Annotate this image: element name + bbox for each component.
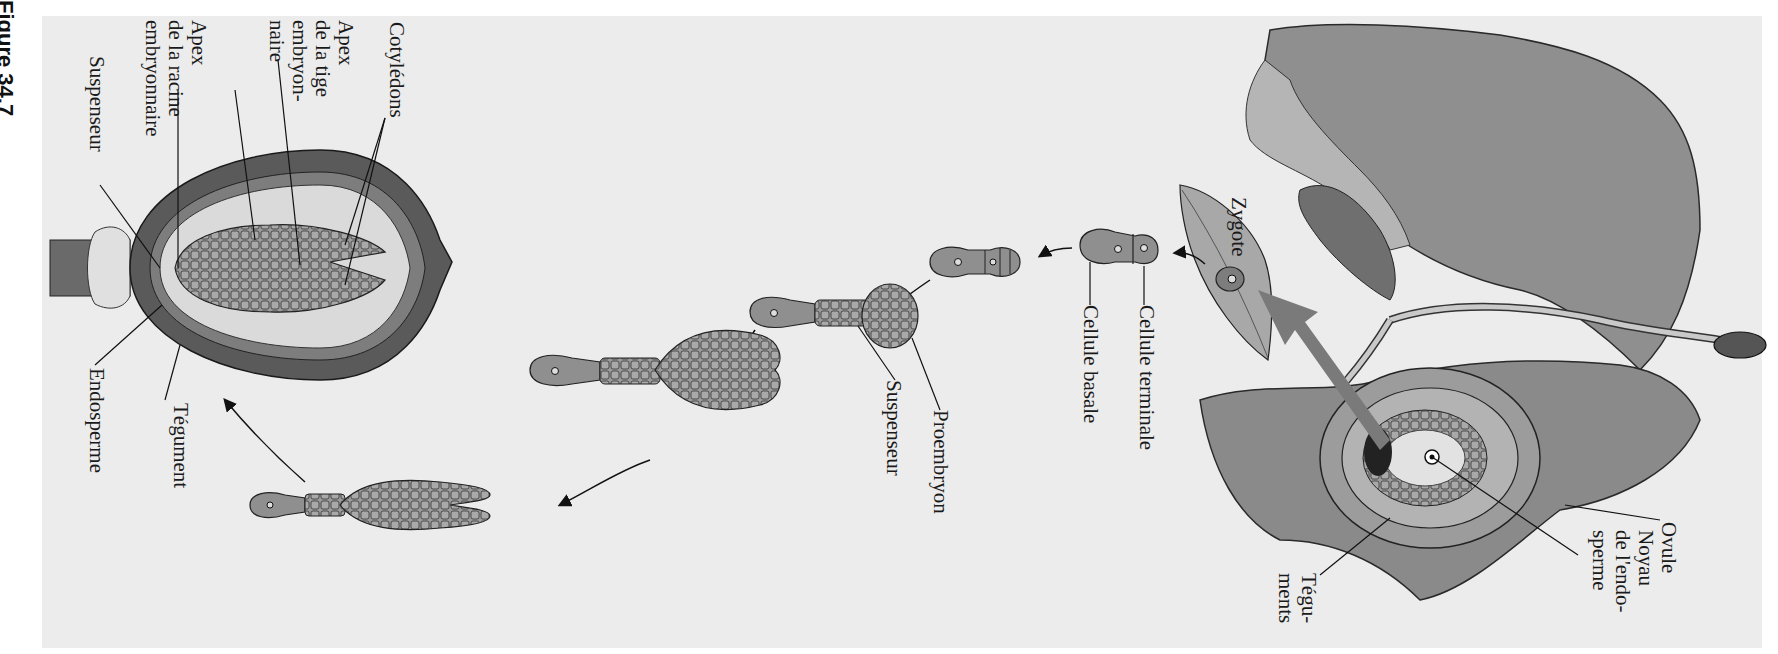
label-noyau-endosperme: Noyau de l'endo- sperme <box>1588 530 1657 613</box>
label-line: de la tige <box>311 20 334 102</box>
label-ovule: Ovule <box>1657 522 1680 573</box>
label-line: de l'endo- <box>1611 530 1634 613</box>
label-suspenseur-seed: Suspenseur <box>85 56 108 152</box>
globular-embryo-drawing <box>530 331 780 505</box>
label-proembryon: Proembryon <box>929 410 952 514</box>
label-line: de la racine <box>164 20 187 137</box>
label-line: Tégu- <box>1297 573 1320 623</box>
label-suspenseur: Suspenseur <box>882 380 905 476</box>
label-line: Noyau <box>1634 530 1657 613</box>
label-line: ments <box>1274 573 1297 623</box>
label-line: Cellule basale <box>1079 305 1102 423</box>
label-apex-racine: Apex de la racine embryonnaire <box>141 20 210 137</box>
label-cotyledons: Cotylédons <box>385 22 408 118</box>
label-line: Apex <box>334 20 357 102</box>
label-line: Proembryon <box>929 410 952 514</box>
label-line: Suspenseur <box>85 56 108 152</box>
two-cell-drawing <box>1040 229 1158 305</box>
label-line: sperme <box>1588 530 1611 613</box>
label-line: Zygote <box>1227 197 1250 256</box>
label-line: Suspenseur <box>882 380 905 476</box>
four-cell-drawing <box>895 247 1020 305</box>
label-line: Tégument <box>169 403 192 488</box>
label-line: Apex <box>187 20 210 137</box>
label-line: Endosperme <box>85 368 108 473</box>
label-line: Cotylédons <box>385 22 408 118</box>
flower-drawing <box>1180 25 1766 600</box>
label-cellule-terminale: Cellule terminale <box>1135 305 1158 450</box>
label-line: embryon- <box>288 20 311 102</box>
label-endosperme: Endosperme <box>85 368 108 473</box>
label-line: Cellule terminale <box>1135 305 1158 450</box>
label-teguments: Tégu- ments <box>1274 573 1320 623</box>
label-cellule-basale: Cellule basale <box>1079 305 1102 423</box>
label-line: embryonnaire <box>141 20 164 137</box>
label-line: naire <box>265 20 288 102</box>
label-ovule-text: Ovule <box>1657 522 1680 573</box>
label-tegument: Tégument <box>169 403 192 488</box>
label-apex-tige: Apex de la tige embryon- naire <box>265 20 357 102</box>
torpedo-embryo-drawing <box>225 400 490 530</box>
label-zygote: Zygote <box>1227 197 1250 256</box>
